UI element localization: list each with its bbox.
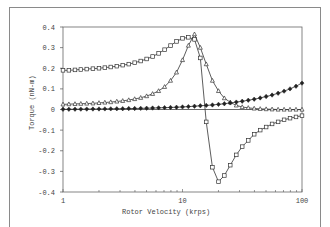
data-point [217, 180, 221, 184]
data-point [115, 107, 119, 111]
data-point [115, 64, 119, 68]
data-point [294, 115, 298, 119]
data-point [109, 65, 113, 69]
data-point [157, 52, 161, 56]
data-point [282, 89, 286, 93]
data-point [240, 99, 244, 103]
data-point [288, 87, 292, 91]
data-point [61, 107, 65, 111]
data-point [181, 58, 185, 62]
data-point [61, 69, 65, 73]
data-point [145, 57, 149, 61]
data-point [204, 120, 208, 124]
data-point [186, 104, 190, 108]
data-point [97, 107, 101, 111]
data-point [204, 62, 208, 66]
data-point [270, 122, 274, 126]
data-point [157, 89, 161, 93]
data-point [300, 81, 304, 85]
data-point [133, 106, 137, 110]
data-point [198, 104, 202, 108]
y-tick-label: -0.4 [38, 189, 55, 197]
y-axis-title: Torque (nN-m) [28, 75, 36, 130]
data-point [228, 163, 232, 167]
y-tick-label: -0.1 [38, 127, 55, 135]
data-point [85, 67, 89, 71]
data-point [127, 106, 131, 110]
y-axis: 0.40.30.20.10-0.1-0.2-0.3-0.4 [38, 24, 63, 197]
data-point [175, 105, 179, 109]
data-point [109, 107, 113, 111]
data-point [193, 38, 197, 42]
series-layer [61, 32, 304, 183]
data-point [91, 67, 95, 71]
data-point [234, 100, 238, 104]
y-tick-label: 0.4 [42, 24, 55, 32]
data-point [210, 78, 214, 82]
y-tick-label: 0.3 [42, 44, 55, 52]
data-point [235, 153, 239, 157]
data-point [169, 44, 173, 48]
data-point [223, 174, 227, 178]
data-point [127, 62, 131, 66]
data-point [151, 55, 155, 59]
data-point [258, 128, 262, 132]
data-point [133, 61, 137, 65]
x-tick-label: 1 [61, 197, 65, 205]
data-point [199, 56, 203, 60]
data-point [264, 125, 268, 129]
data-point [67, 107, 71, 111]
data-point [163, 48, 167, 52]
data-point [121, 106, 125, 110]
y-tick-label: 0.1 [42, 85, 55, 93]
data-point [103, 66, 107, 70]
y-tick-label: -0.3 [38, 168, 55, 176]
data-point [264, 94, 268, 98]
data-point [175, 70, 179, 74]
data-point [222, 102, 226, 106]
data-point [79, 107, 83, 111]
data-point [294, 84, 298, 88]
data-point [246, 139, 250, 143]
data-point [192, 104, 196, 108]
data-point [91, 107, 95, 111]
data-point [139, 59, 143, 63]
data-point [258, 96, 262, 100]
x-axis: 110100 [61, 189, 308, 205]
data-point [79, 68, 83, 72]
data-point [181, 37, 185, 41]
x-axis-title: Rotor Velocity (krps) [122, 208, 210, 216]
data-point [169, 105, 173, 109]
data-point [216, 102, 220, 106]
data-point [198, 45, 202, 49]
series-filled-diamond [61, 81, 304, 112]
data-point [67, 69, 71, 73]
data-point [276, 120, 280, 124]
x-tick-label: 100 [296, 197, 309, 205]
data-point [192, 32, 196, 36]
data-point [186, 43, 190, 47]
data-point [246, 98, 250, 102]
data-point [276, 91, 280, 95]
data-point [210, 103, 214, 107]
data-point [252, 132, 256, 136]
data-point [121, 63, 125, 67]
series-open-triangle [61, 32, 304, 111]
y-tick-label: 0.2 [42, 65, 55, 73]
data-point [252, 97, 256, 101]
data-point [282, 118, 286, 122]
torque-vs-velocity-chart: 0.40.30.20.10-0.1-0.2-0.3-0.4 110100 Rot… [0, 0, 330, 227]
data-point [211, 165, 215, 169]
data-point [270, 93, 274, 97]
data-point [103, 107, 107, 111]
data-point [288, 116, 292, 120]
data-point [97, 66, 101, 70]
data-point [300, 114, 304, 118]
y-tick-label: -0.2 [38, 147, 55, 155]
x-tick-label: 10 [178, 197, 186, 205]
y-tick-label: 0 [51, 106, 55, 114]
data-point [73, 107, 77, 111]
data-point [175, 40, 179, 44]
data-point [181, 105, 185, 109]
data-point [73, 68, 77, 72]
